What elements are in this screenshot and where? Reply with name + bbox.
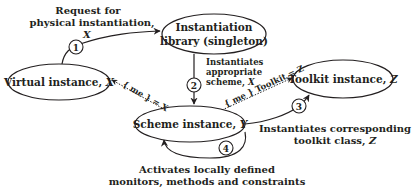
annotation-activates: Activates locally defined monitors, meth… <box>109 164 306 188</box>
svg-text:1: 1 <box>73 43 79 53</box>
svg-text:Request for: Request for <box>55 5 121 16</box>
step-1-badge: 1 <box>69 40 83 54</box>
virtual-label: Virtual instance, <box>3 76 106 88</box>
toolkit-label: Toolkit instance, <box>288 73 390 85</box>
node-virtual-instance: Virtual instance, X <box>3 64 115 100</box>
svg-text:Activates locally defined: Activates locally defined <box>138 164 275 175</box>
svg-text:physical instantiation,: physical instantiation, <box>29 17 154 29</box>
annotation-instantiates-toolkit: Instantiates corresponding toolkit class… <box>259 123 411 147</box>
library-label-line1: Instantiation <box>176 21 253 33</box>
node-toolkit-instance: Toolkit instance, Z <box>288 60 398 98</box>
node-scheme-instance: Scheme instance, Y <box>133 106 249 142</box>
node-instantiation-library: Instantiation library (singleton) <box>160 14 268 54</box>
step-2-badge: 2 <box>187 78 201 92</box>
step-3-badge: 3 <box>292 99 306 113</box>
edge-label-me-virtual: { me } = X <box>121 79 170 113</box>
svg-text:Instantiates corresponding: Instantiates corresponding <box>259 123 411 134</box>
annotation-request: Request for physical instantiation, X <box>29 5 154 40</box>
svg-text:X: X <box>82 29 92 40</box>
svg-text:3: 3 <box>296 102 302 112</box>
svg-text:appropriate: appropriate <box>206 67 263 77</box>
svg-text:scheme, X: scheme, X <box>206 77 255 88</box>
annotation-instantiates-scheme: Instantiates appropriate scheme, X <box>206 57 264 88</box>
svg-text:toolkit class, Z: toolkit class, Z <box>294 135 377 147</box>
svg-text:Virtual instance, X: Virtual instance, X <box>3 76 115 88</box>
svg-text:monitors, methods and constrai: monitors, methods and constraints <box>109 176 306 188</box>
svg-text:4: 4 <box>223 144 229 154</box>
svg-text:Scheme instance, Y: Scheme instance, Y <box>133 118 249 130</box>
scheme-label: Scheme instance, <box>133 118 240 130</box>
toolkit-var: Z <box>389 73 398 85</box>
library-label-line2: library (singleton) <box>160 35 268 47</box>
svg-text:Instantiates: Instantiates <box>206 57 264 67</box>
svg-text:2: 2 <box>191 81 197 91</box>
step-4-badge: 4 <box>219 141 233 155</box>
virtual-var: X <box>105 76 115 88</box>
svg-text:Toolkit instance, Z: Toolkit instance, Z <box>288 73 398 85</box>
instantiation-diagram: Instantiation library (singleton) Virtua… <box>0 0 412 191</box>
